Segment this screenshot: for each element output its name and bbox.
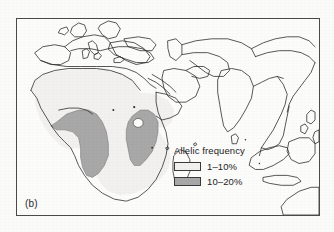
legend-item-low: 1–10% — [174, 161, 282, 172]
legend-swatch-low — [174, 162, 201, 171]
legend-label-high: 10–20% — [207, 176, 242, 187]
lake-victoria-outline — [133, 118, 143, 127]
figure-root: Allelic frequency 1–10% 10–20% (b) — [0, 0, 334, 232]
panel-label: (b) — [25, 199, 38, 209]
legend-title: Allelic frequency — [174, 145, 282, 156]
map-legend: Allelic frequency 1–10% 10–20% — [174, 145, 282, 191]
legend-swatch-high — [174, 177, 201, 186]
map-frame: Allelic frequency 1–10% 10–20% (b) — [16, 18, 320, 216]
legend-label-low: 1–10% — [207, 161, 237, 172]
legend-item-high: 10–20% — [174, 176, 282, 187]
